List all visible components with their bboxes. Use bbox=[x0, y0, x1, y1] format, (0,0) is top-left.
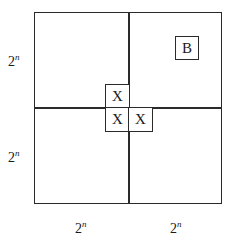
x-cell-label: X bbox=[112, 88, 123, 105]
x-cell-bottom-right: X bbox=[128, 107, 153, 132]
x-cell-label: X bbox=[135, 111, 146, 128]
b-cell: B bbox=[175, 36, 199, 60]
b-cell-label: B bbox=[182, 40, 192, 57]
x-cell-bottom-left: X bbox=[105, 107, 130, 132]
x-cell-top-left: X bbox=[105, 84, 130, 109]
bottom-label-right: 2n bbox=[170, 222, 182, 236]
bottom-label-left: 2n bbox=[75, 222, 87, 236]
left-label-bottom: 2n bbox=[8, 151, 20, 165]
x-cell-label: X bbox=[112, 111, 123, 128]
left-label-top: 2n bbox=[8, 55, 20, 69]
